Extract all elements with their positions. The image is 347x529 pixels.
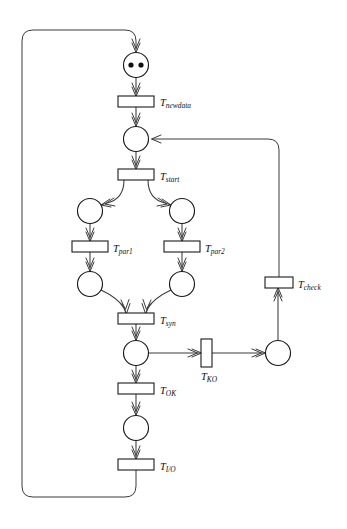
arc-sync-to-ko bbox=[149, 349, 202, 357]
transition-io[interactable] bbox=[118, 459, 154, 470]
transition-par1[interactable] bbox=[72, 241, 108, 252]
arc-tpar2-to-par2out bbox=[178, 252, 186, 272]
place-par1-out[interactable] bbox=[78, 272, 103, 297]
label-transition-syn: Tsyn bbox=[160, 315, 176, 328]
arc-start-to-par1 bbox=[101, 180, 124, 207]
label-transition-check: Tcheck bbox=[298, 279, 321, 292]
petri-net-canvas: Tnewdata Tstart Tpar1 Tpar2 Tsyn TOK TI/… bbox=[0, 0, 347, 529]
arc-par2out-to-syn bbox=[142, 290, 171, 314]
arc-done-to-io bbox=[132, 441, 140, 460]
arc-syn-to-sync bbox=[132, 324, 140, 341]
arc-ok-to-done bbox=[132, 394, 140, 416]
place-ok[interactable] bbox=[124, 416, 149, 441]
transition-check[interactable] bbox=[265, 277, 293, 288]
arc-newdata-to-ready bbox=[132, 107, 140, 127]
place-ready[interactable] bbox=[124, 127, 149, 152]
label-transition-newdata: Tnewdata bbox=[160, 97, 191, 110]
transition-syn[interactable] bbox=[118, 313, 154, 324]
place-par1-in[interactable] bbox=[78, 199, 103, 224]
arc-par1out-to-syn bbox=[101, 290, 130, 314]
place-par2-in[interactable] bbox=[170, 199, 195, 224]
place-failed[interactable] bbox=[266, 341, 291, 366]
transition-ko[interactable] bbox=[201, 339, 212, 367]
arc-tpar1-to-par1out bbox=[86, 252, 94, 272]
place-initial[interactable] bbox=[124, 53, 149, 78]
label-transition-par1: Tpar1 bbox=[113, 243, 133, 256]
arc-ko-to-failed bbox=[212, 349, 266, 357]
label-transition-ko: TKO bbox=[201, 371, 218, 384]
token-dot bbox=[128, 62, 133, 67]
label-transition-io: TI/O bbox=[160, 461, 176, 474]
transition-par2[interactable] bbox=[164, 241, 200, 252]
place-synchronized[interactable] bbox=[124, 341, 149, 366]
transition-start[interactable] bbox=[118, 169, 154, 180]
label-transition-start: Tstart bbox=[160, 171, 180, 184]
label-transition-ok: TOK bbox=[160, 385, 177, 398]
token-dot bbox=[138, 62, 143, 67]
arc-failed-to-check bbox=[274, 288, 282, 341]
arc-sync-to-ok bbox=[132, 366, 140, 384]
arc-par1in-to-tpar1 bbox=[86, 224, 94, 242]
arc-ready-to-start bbox=[132, 152, 140, 170]
arc-par2in-to-tpar2 bbox=[178, 224, 186, 242]
label-transition-par2: Tpar2 bbox=[205, 243, 225, 256]
transition-ok[interactable] bbox=[118, 383, 154, 394]
arc-start-token-to-newdata bbox=[132, 78, 140, 97]
transition-newdata[interactable] bbox=[118, 96, 154, 107]
petri-net-diagram: Tnewdata Tstart Tpar1 Tpar2 Tsyn TOK TI/… bbox=[0, 0, 347, 529]
place-par2-out[interactable] bbox=[170, 272, 195, 297]
